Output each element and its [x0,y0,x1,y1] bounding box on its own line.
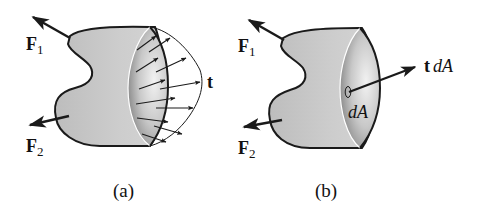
caption-a: (a) [113,180,134,202]
force-f1-arrow [33,17,70,38]
traction-label: t [207,72,213,92]
force-f1-label: F1 [26,34,44,57]
panel-a: F1 F2 t (a) [26,17,213,202]
caption-b: (b) [315,180,337,202]
force-f2-label: F2 [238,138,256,161]
area-label: dA [348,102,369,122]
panel-b: tdA dA F1 F2 (b) [238,20,454,202]
stress-traction-figure: F1 F2 t (a) tdA dA F1 F2 [0,0,483,214]
force-f1-label: F1 [238,36,256,59]
force-f2-label: F2 [26,136,44,159]
force-f1-arrow [249,20,284,40]
traction-force-label: tdA [424,56,454,76]
